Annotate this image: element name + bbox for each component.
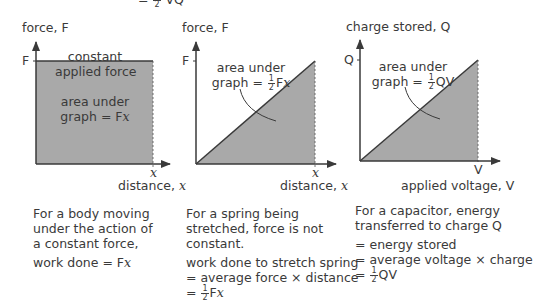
y-tick-label: Q bbox=[344, 52, 354, 67]
area-label: area under graph = 12Fx bbox=[206, 60, 296, 92]
y-axis-label: charge stored, Q bbox=[346, 19, 450, 34]
x-tick-label: V bbox=[474, 162, 483, 177]
area-label: area under graph = Fx bbox=[55, 94, 135, 124]
y-tick-label: F bbox=[182, 53, 189, 68]
y-axis-label: force, F bbox=[182, 20, 229, 35]
caption-constant-force: For a body moving under the action of a … bbox=[33, 206, 153, 270]
line-label: constant applied force bbox=[55, 49, 135, 79]
caption-spring: For a spring being stretched, force is n… bbox=[186, 206, 358, 301]
x-axis-label: distance, x bbox=[118, 178, 186, 193]
caption-capacitor: For a capacitor, energy transferred to c… bbox=[355, 203, 533, 284]
area-label: area under graph = 12QV bbox=[368, 59, 458, 91]
y-axis-label: force, F bbox=[22, 20, 69, 35]
x-axis-label: distance, x bbox=[280, 178, 348, 193]
x-axis-label: applied voltage, V bbox=[401, 178, 514, 193]
y-tick-label: F bbox=[22, 53, 29, 68]
